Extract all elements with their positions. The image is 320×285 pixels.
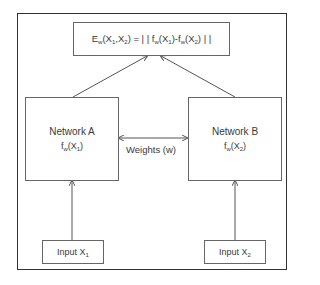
input-1-label: Input X1: [57, 247, 89, 258]
arrow-b-to-loss: [161, 56, 235, 97]
shared-weights-label: Weights (w): [126, 144, 176, 155]
network-b-title: Network B: [212, 126, 258, 137]
arrow-a-to-loss: [73, 56, 147, 97]
input-2-label: Input X2: [219, 247, 251, 258]
loss-box: Ew(X1,X2) = | | fw(X1)-fw(X2) | |: [73, 22, 230, 56]
network-b-box: Network B fw(X2): [188, 97, 282, 181]
input-1-box: Input X1: [42, 240, 104, 264]
network-a-box: Network A fw(X1): [25, 97, 119, 181]
network-b-function: fw(X2): [224, 141, 246, 152]
loss-formula: Ew(X1,X2) = | | fw(X1)-fw(X2) | |: [92, 33, 211, 45]
network-a-title: Network A: [49, 126, 95, 137]
input-2-box: Input X2: [204, 240, 266, 264]
network-a-function: fw(X1): [61, 141, 83, 152]
